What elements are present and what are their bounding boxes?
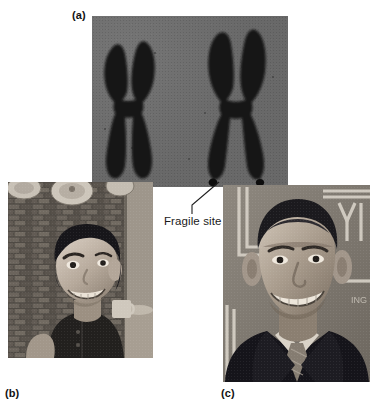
fragile-x-chromosome xyxy=(208,29,266,180)
chromosome-drawing xyxy=(92,16,288,187)
wall-plate xyxy=(51,182,93,205)
panel-label-c: (c) xyxy=(221,387,235,399)
panel-label-b: (b) xyxy=(5,387,19,399)
figure-container: ING xyxy=(0,0,381,411)
panel-a-chromosome-micrograph xyxy=(92,16,288,187)
normal-x-chromosome xyxy=(104,41,154,178)
cup xyxy=(112,300,131,318)
photograph-boy-rendering xyxy=(8,182,153,358)
banner-small-text: ING xyxy=(351,295,367,305)
photograph-man-rendering: ING xyxy=(223,185,370,382)
panel-c-photograph-man: ING xyxy=(223,185,370,382)
fragile-site-label: Fragile site xyxy=(164,215,221,227)
panel-b-photograph-boy xyxy=(8,182,153,358)
panel-label-a: (a) xyxy=(72,9,86,21)
